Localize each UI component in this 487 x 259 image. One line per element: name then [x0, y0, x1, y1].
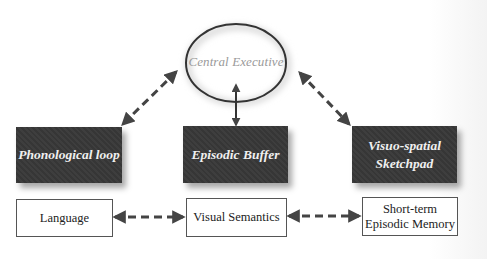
visuospatial-label-line1: Visuo-spatial [368, 137, 441, 155]
visuospatial-sketchpad-box: Visuo-spatial Sketchpad [352, 126, 457, 183]
episodic-buffer-box: Episodic Buffer [183, 126, 288, 183]
language-box: Language [16, 199, 113, 237]
visuospatial-label-line2: Sketchpad [376, 155, 434, 173]
phonological-loop-box: Phonological loop [16, 127, 122, 183]
short-term-label-line2: Episodic Memory [365, 217, 455, 232]
visual-semantics-label: Visual Semantics [193, 210, 279, 225]
language-label: Language [40, 211, 89, 226]
phonological-loop-label: Phonological loop [18, 146, 120, 164]
working-memory-diagram: Central Executive Phonological loop Epis… [0, 0, 487, 259]
short-term-episodic-memory-box: Short-term Episodic Memory [362, 197, 458, 236]
central-executive-label: Central Executive [186, 54, 286, 70]
arrow-central-visuospatial [300, 73, 349, 124]
episodic-buffer-label: Episodic Buffer [192, 146, 280, 164]
visual-semantics-box: Visual Semantics [186, 198, 287, 237]
short-term-label-line1: Short-term [383, 202, 437, 217]
arrow-central-phonological [123, 72, 176, 124]
